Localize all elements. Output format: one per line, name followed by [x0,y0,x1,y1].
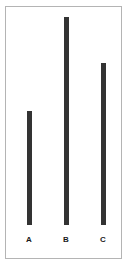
bar-group-a: A [14,17,44,225]
bar-b [64,17,69,225]
bar-chart-figure: A B C [0,0,128,272]
bar-a [27,111,32,225]
bar-label-a: A [14,235,44,245]
plot-area: A B C [6,7,121,258]
bar-group-b: B [51,17,81,225]
plot-frame: A B C [5,6,122,259]
bar-label-c: C [88,235,118,245]
bar-label-b: B [51,235,81,245]
bar-group-c: C [88,17,118,225]
bar-c [101,63,106,225]
